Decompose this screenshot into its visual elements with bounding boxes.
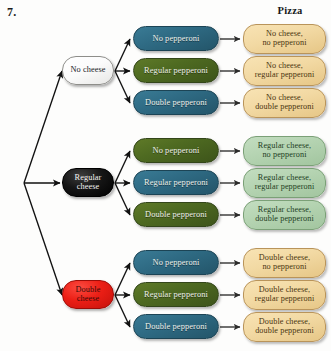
tree-diagram-canvas: 7. Pizza No cheese Regular cheese Double… <box>0 0 331 351</box>
outcome-line2: regular pepperoni <box>255 295 315 304</box>
node-double-cheese-double-pepperoni[interactable]: Double pepperoni <box>133 314 219 339</box>
outcome-line2: regular pepperoni <box>255 183 315 192</box>
outcome-line2: regular pepperoni <box>255 71 315 80</box>
pepperoni-label: Regular pepperoni <box>144 178 208 187</box>
node-no-cheese-label: No cheese <box>70 66 105 75</box>
node-regular-cheese[interactable]: Regular cheese <box>62 168 114 197</box>
outcome-line2: double pepperoni <box>255 215 314 224</box>
node-double-cheese-label-line2: cheese <box>77 295 100 304</box>
outcome-double-cheese-regular-pepperoni[interactable]: Double cheese, regular pepperoni <box>243 280 326 310</box>
outcome-no-cheese-no-pepperoni[interactable]: No cheese, no pepperoni <box>243 24 326 54</box>
outcome-no-cheese-double-pepperoni[interactable]: No cheese, double pepperoni <box>243 88 326 118</box>
pepperoni-label: No pepperoni <box>152 34 199 43</box>
node-double-cheese-regular-pepperoni[interactable]: Regular pepperoni <box>133 282 219 307</box>
outcome-line2: double pepperoni <box>255 327 314 336</box>
node-regular-cheese-regular-pepperoni[interactable]: Regular pepperoni <box>133 170 219 195</box>
pepperoni-label: Regular pepperoni <box>144 66 208 75</box>
node-double-cheese-no-pepperoni[interactable]: No pepperoni <box>133 250 219 275</box>
pepperoni-label: Regular pepperoni <box>144 290 208 299</box>
outcome-double-cheese-double-pepperoni[interactable]: Double cheese, double pepperoni <box>243 312 326 342</box>
node-double-cheese[interactable]: Double cheese <box>62 280 114 309</box>
outcome-line2: no pepperoni <box>262 39 306 48</box>
pepperoni-label: No pepperoni <box>152 258 199 267</box>
node-regular-cheese-no-pepperoni[interactable]: No pepperoni <box>133 138 219 163</box>
outcome-double-cheese-no-pepperoni[interactable]: Double cheese, no pepperoni <box>243 248 326 278</box>
node-no-cheese-regular-pepperoni[interactable]: Regular pepperoni <box>133 58 219 83</box>
node-no-cheese-double-pepperoni[interactable]: Double pepperoni <box>133 90 219 115</box>
problem-number: 7. <box>7 5 17 20</box>
outcome-regular-cheese-double-pepperoni[interactable]: Regular cheese, double pepperoni <box>243 200 326 230</box>
node-no-cheese-no-pepperoni[interactable]: No pepperoni <box>133 26 219 51</box>
pepperoni-label: No pepperoni <box>152 146 199 155</box>
outcome-line2: double pepperoni <box>255 103 314 112</box>
pepperoni-label: Double pepperoni <box>145 210 207 219</box>
node-regular-cheese-label-line2: cheese <box>77 183 100 192</box>
outcome-no-cheese-regular-pepperoni[interactable]: No cheese, regular pepperoni <box>243 56 326 86</box>
node-regular-cheese-double-pepperoni[interactable]: Double pepperoni <box>133 202 219 227</box>
pepperoni-label: Double pepperoni <box>145 322 207 331</box>
node-no-cheese[interactable]: No cheese <box>62 56 114 85</box>
column-header-pizza: Pizza <box>242 5 331 16</box>
outcome-regular-cheese-regular-pepperoni[interactable]: Regular cheese, regular pepperoni <box>243 168 326 198</box>
outcome-regular-cheese-no-pepperoni[interactable]: Regular cheese, no pepperoni <box>243 136 326 166</box>
pepperoni-label: Double pepperoni <box>145 98 207 107</box>
outcome-line2: no pepperoni <box>262 151 306 160</box>
outcome-line2: no pepperoni <box>262 263 306 272</box>
